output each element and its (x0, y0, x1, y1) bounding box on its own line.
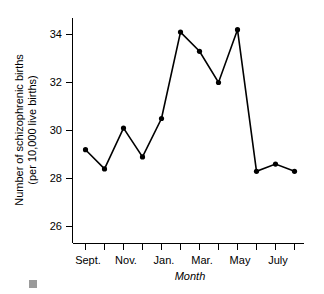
y-axis-title-line1: Number of schizophrenic births (13, 54, 25, 206)
y-tick-label-34: 34 (50, 28, 62, 40)
series-markers (83, 27, 297, 174)
data-point (273, 162, 278, 167)
y-tick-label-30: 30 (50, 124, 62, 136)
data-point (235, 27, 240, 32)
x-axis-tick-labels: Sept. Nov. Jan. Mar. May July (75, 254, 288, 266)
y-tick-label-28: 28 (50, 172, 62, 184)
line-chart: Number of schizophrenic births (per 10,0… (0, 0, 324, 294)
x-axis-ticks (86, 244, 295, 251)
data-point (197, 49, 202, 54)
x-axis-title: Month (175, 270, 206, 282)
data-point (83, 147, 88, 152)
x-tick-label-mar: Mar. (191, 254, 212, 266)
data-point (292, 169, 297, 174)
series-line-schizophrenic-births (86, 30, 295, 172)
data-point (216, 80, 221, 85)
data-point (140, 154, 145, 159)
y-axis-title: Number of schizophrenic births (per 10,0… (13, 54, 38, 206)
data-point (159, 116, 164, 121)
x-tick-label-sept: Sept. (75, 254, 101, 266)
chart-plot-area: Number of schizophrenic births (per 10,0… (0, 0, 324, 294)
data-point (254, 169, 259, 174)
y-axis-title-line2: (per 10,000 live births) (26, 75, 38, 184)
corner-square-marker (29, 280, 37, 288)
y-axis-tick-labels: 34 32 30 28 26 (50, 28, 62, 232)
y-axis-ticks (66, 35, 73, 227)
data-point (178, 29, 183, 34)
y-tick-label-32: 32 (50, 76, 62, 88)
x-tick-label-may: May (230, 254, 251, 266)
x-tick-label-nov: Nov. (115, 254, 137, 266)
x-tick-label-jan: Jan. (154, 254, 175, 266)
data-point (121, 126, 126, 131)
data-point (102, 166, 107, 171)
x-tick-label-july: July (268, 254, 288, 266)
y-tick-label-26: 26 (50, 220, 62, 232)
